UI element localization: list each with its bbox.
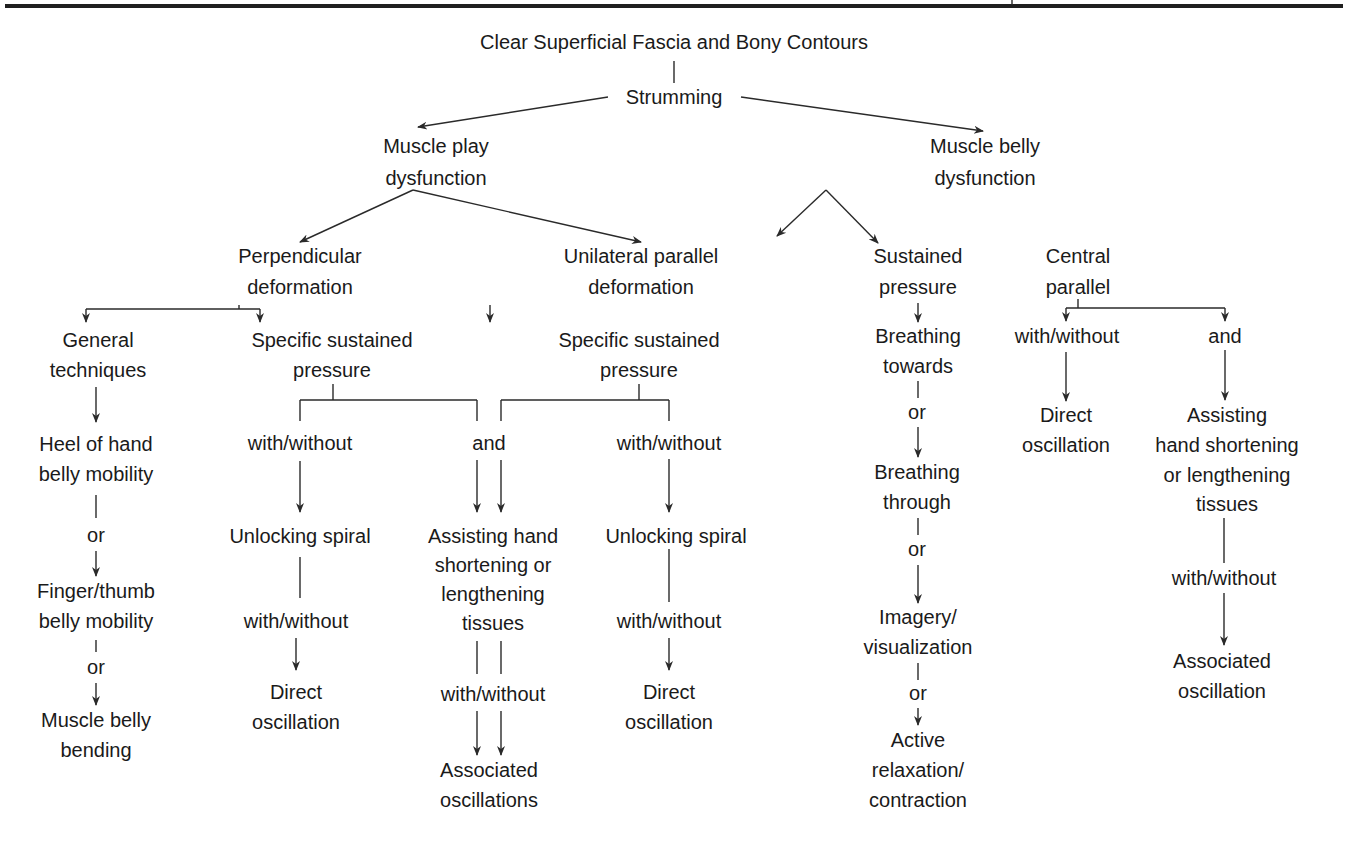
svg-text:dysfunction: dysfunction [934, 167, 1035, 189]
svg-text:Muscle belly: Muscle belly [41, 709, 151, 731]
node-with-without-mid-2: with/without [440, 683, 546, 705]
node-finger-thumb: Finger/thumb belly mobility [37, 580, 155, 632]
node-specific-sustained-pressure-left: Specific sustained pressure [251, 329, 412, 381]
svg-text:Perpendicular: Perpendicular [238, 245, 362, 267]
node-general-techniques: General techniques [50, 329, 147, 381]
technique-flowchart: Clear Superficial Fascia and Bony Contou… [0, 0, 1348, 845]
node-breathing-through: Breathing through [874, 461, 960, 513]
svg-text:Sustained: Sustained [874, 245, 963, 267]
svg-text:deformation: deformation [247, 276, 353, 298]
node-assisting-hand-mid: Assisting hand shortening or lengthening… [428, 525, 558, 634]
svg-text:oscillation: oscillation [1178, 680, 1266, 702]
svg-text:pressure: pressure [293, 359, 371, 381]
svg-text:General: General [62, 329, 133, 351]
node-muscle-play-dysfunction: Muscle play dysfunction [383, 135, 489, 189]
node-muscle-belly-bending: Muscle belly bending [41, 709, 151, 761]
svg-text:Finger/thumb: Finger/thumb [37, 580, 155, 602]
svg-text:belly mobility: belly mobility [39, 610, 153, 632]
node-and-central: and [1208, 325, 1241, 347]
node-and-mid: and [472, 432, 505, 454]
svg-text:Breathing: Breathing [875, 325, 961, 347]
node-or-5: or [909, 682, 927, 704]
svg-text:Imagery/: Imagery/ [879, 606, 957, 628]
svg-text:tissues: tissues [462, 612, 524, 634]
node-breathing-towards: Breathing towards [875, 325, 961, 377]
node-title: Clear Superficial Fascia and Bony Contou… [480, 31, 868, 53]
node-heel-of-hand: Heel of hand belly mobility [39, 433, 153, 485]
svg-text:Direct: Direct [270, 681, 323, 703]
svg-text:oscillation: oscillation [625, 711, 713, 733]
node-strumming: Strumming [626, 86, 723, 108]
node-with-without-left-2: with/without [243, 610, 349, 632]
svg-text:hand shortening: hand shortening [1155, 434, 1298, 456]
svg-text:Specific sustained: Specific sustained [558, 329, 719, 351]
node-direct-oscillation-right: Direct oscillation [625, 681, 713, 733]
svg-text:relaxation/: relaxation/ [872, 759, 965, 781]
node-direct-oscillation-left: Direct oscillation [252, 681, 340, 733]
node-active-relaxation-contraction: Active relaxation/ contraction [869, 729, 967, 811]
svg-text:lengthening: lengthening [441, 583, 544, 605]
svg-text:pressure: pressure [879, 276, 957, 298]
node-with-without-right-3: with/without [1171, 567, 1277, 589]
svg-text:Muscle play: Muscle play [383, 135, 489, 157]
node-or-4: or [908, 538, 926, 560]
node-specific-sustained-pressure-right: Specific sustained pressure [558, 329, 719, 381]
svg-text:oscillation: oscillation [1022, 434, 1110, 456]
node-unilateral-parallel-deformation: Unilateral parallel deformation [564, 245, 719, 298]
node-with-without-left: with/without [247, 432, 353, 454]
svg-text:techniques: techniques [50, 359, 147, 381]
svg-text:oscillation: oscillation [252, 711, 340, 733]
svg-text:towards: towards [883, 355, 953, 377]
node-associated-oscillation-right: Associated oscillation [1173, 650, 1271, 702]
node-or-2: or [87, 656, 105, 678]
svg-text:tissues: tissues [1196, 493, 1258, 515]
svg-text:Breathing: Breathing [874, 461, 960, 483]
svg-text:deformation: deformation [588, 276, 694, 298]
node-imagery-visualization: Imagery/ visualization [864, 606, 973, 658]
svg-text:Associated: Associated [440, 759, 538, 781]
svg-text:Central: Central [1046, 245, 1110, 267]
node-unlocking-spiral-left: Unlocking spiral [229, 525, 370, 547]
svg-text:Assisting: Assisting [1187, 404, 1267, 426]
svg-text:dysfunction: dysfunction [385, 167, 486, 189]
node-direct-oscillation-central: Direct oscillation [1022, 404, 1110, 456]
node-or-3: or [908, 401, 926, 423]
svg-text:shortening or: shortening or [435, 554, 552, 576]
svg-text:oscillations: oscillations [440, 789, 538, 811]
node-with-without-right-2: with/without [616, 610, 722, 632]
node-with-without-central: with/without [1014, 325, 1120, 347]
node-perpendicular-deformation: Perpendicular deformation [238, 245, 362, 298]
node-muscle-belly-dysfunction: Muscle belly dysfunction [930, 135, 1040, 189]
svg-text:belly mobility: belly mobility [39, 463, 153, 485]
svg-text:Direct: Direct [643, 681, 696, 703]
svg-text:Assisting hand: Assisting hand [428, 525, 558, 547]
svg-text:Direct: Direct [1040, 404, 1093, 426]
svg-text:Heel of hand: Heel of hand [39, 433, 152, 455]
node-with-without-right: with/without [616, 432, 722, 454]
svg-text:pressure: pressure [600, 359, 678, 381]
svg-text:Muscle belly: Muscle belly [930, 135, 1040, 157]
node-unlocking-spiral-right: Unlocking spiral [605, 525, 746, 547]
node-central-parallel: Central parallel [1046, 245, 1110, 298]
svg-text:Active: Active [891, 729, 945, 751]
svg-text:parallel: parallel [1046, 276, 1110, 298]
svg-text:Associated: Associated [1173, 650, 1271, 672]
node-associated-oscillations-mid: Associated oscillations [440, 759, 538, 811]
node-or-1: or [87, 524, 105, 546]
svg-text:bending: bending [60, 739, 131, 761]
node-sustained-pressure: Sustained pressure [874, 245, 963, 298]
svg-text:through: through [883, 491, 951, 513]
svg-text:Unilateral parallel: Unilateral parallel [564, 245, 719, 267]
node-assisting-hand-right: Assisting hand shortening or lengthening… [1155, 404, 1298, 515]
svg-text:contraction: contraction [869, 789, 967, 811]
svg-text:Specific sustained: Specific sustained [251, 329, 412, 351]
svg-text:visualization: visualization [864, 636, 973, 658]
svg-text:or lengthening: or lengthening [1164, 464, 1291, 486]
